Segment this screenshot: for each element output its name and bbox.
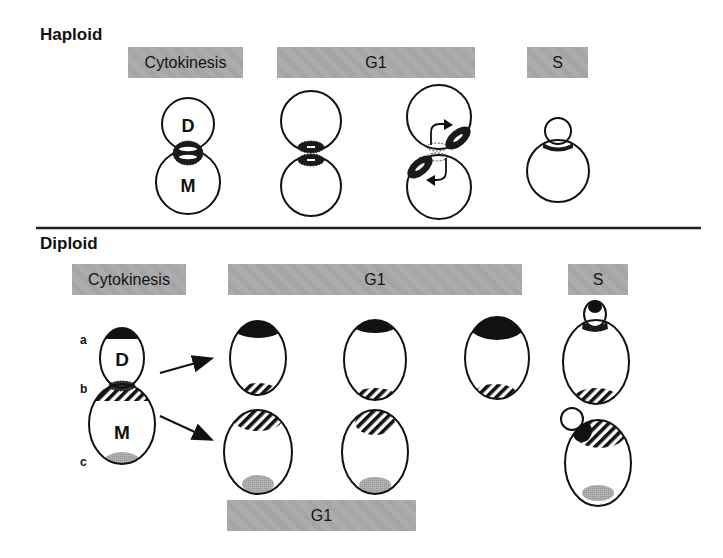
mother-label: M bbox=[114, 422, 130, 443]
daughter-label: D bbox=[182, 116, 195, 136]
diploid-g1-daughter-2 bbox=[344, 313, 406, 406]
diploid-cytokinesis-cell: D M bbox=[85, 325, 160, 470]
mother-label: M bbox=[181, 176, 196, 196]
daughter-label: D bbox=[115, 349, 129, 370]
haploid-g1-cell-1 bbox=[281, 91, 341, 216]
diploid-s-mother-budded bbox=[561, 408, 631, 506]
arrow-to-mother-icon bbox=[160, 416, 210, 439]
septin-double-ring bbox=[173, 141, 203, 165]
diploid-g1-daughter-1 bbox=[230, 314, 286, 401]
diploid-s-daughter-budded bbox=[563, 301, 629, 408]
haploid-g1-cell-2 bbox=[403, 85, 474, 219]
arrow-to-daughter-icon bbox=[160, 359, 210, 373]
curved-arrow-icon bbox=[431, 124, 446, 145]
diploid-g1-daughter-3 bbox=[465, 310, 529, 404]
haploid-s-budded-cell bbox=[527, 118, 589, 202]
cell-diagram-svg: D M bbox=[0, 0, 723, 558]
split-septin-ring bbox=[298, 141, 324, 166]
haploid-cytokinesis-cell: D M bbox=[156, 98, 220, 214]
diploid-g1-mother-1 bbox=[224, 403, 292, 494]
diagram-canvas: Haploid Cytokinesis G1 S Diploid Cytokin… bbox=[0, 0, 723, 558]
diploid-g1-mother-2 bbox=[342, 409, 408, 494]
